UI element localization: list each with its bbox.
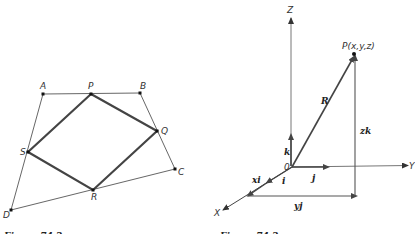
label-j-vector: j [310,173,316,183]
label-c: C [178,167,185,177]
label-r: R [91,192,97,202]
label-p: P [88,81,94,91]
label-x-axis: X [213,208,221,218]
label-point-p: P(x,y,z) [342,41,375,51]
vector-3d-figure: Z Y X 0 P(x,y,z) R k j i xi yj zk Figure… [213,5,415,234]
label-a: A [39,81,46,91]
label-k-vector: k [284,147,290,157]
inner-quadrilateral-pqrs [28,94,157,190]
label-q: Q [161,126,168,136]
r-vector [292,58,353,167]
label-z-axis: Z [286,5,294,15]
label-d: D [3,210,10,220]
label-r-vector: R [320,96,329,106]
label-y-axis: Y [409,161,415,171]
label-s: S [20,147,26,157]
label-xi-vector: xi [251,175,261,185]
label-zk-vector: zk [359,126,371,136]
caption-right: Figure 74.3 [219,231,278,234]
caption-left: Figure 74.2 [3,231,62,234]
label-b: B [140,81,146,91]
point-p-dot [352,52,356,56]
label-i-vector: i [282,176,286,186]
quadrilateral-figure: A P B Q C R D S Figure 74.2 [3,81,185,234]
label-origin: 0 [284,162,290,172]
label-yj-vector: yj [293,201,303,211]
figure-canvas: A P B Q C R D S Figure 74.2 Z Y X [0,0,415,234]
